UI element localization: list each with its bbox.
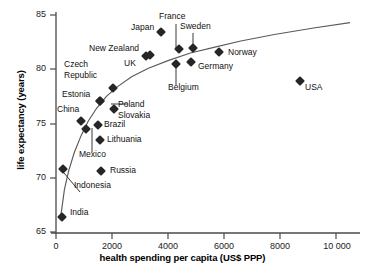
point-label-germany: Germany xyxy=(198,62,233,72)
point-label-brazil: Brazil xyxy=(104,120,125,130)
x-axis-title: health spending per capita (US$ PPP) xyxy=(0,252,365,263)
point-label-estonia: Estonia xyxy=(62,90,90,100)
y-tick-label-65: 65 xyxy=(22,226,46,236)
point-label-china: China xyxy=(57,105,79,115)
point-label-sweden: Sweden xyxy=(180,22,211,32)
point-label-belgium: Belgium xyxy=(168,83,199,93)
scatter-chart: 85 80 75 70 65 0 2000 4000 6000 8000 10 … xyxy=(0,0,365,274)
point-label-russia: Russia xyxy=(110,166,136,176)
point-label-india: India xyxy=(70,208,88,218)
y-axis-title: life expectancy (years) xyxy=(15,30,26,210)
point-label-lithuania: Lithuania xyxy=(107,135,142,145)
point-label-mexico: Mexico xyxy=(79,150,106,160)
x-tick-label-0: 0 xyxy=(26,241,86,251)
point-label-japan: Japan xyxy=(131,23,154,33)
point-label-new-zealand: New Zealand xyxy=(89,44,139,54)
x-tick-label-4000: 4000 xyxy=(138,241,198,251)
y-tick-label-85: 85 xyxy=(22,9,46,19)
point-label-poland: Poland xyxy=(118,100,144,110)
point-label-norway: Norway xyxy=(228,48,257,58)
point-label-indonesia: Indonesia xyxy=(74,181,111,191)
x-tick-label-10000: 10 000 xyxy=(307,241,365,251)
x-tick-label-6000: 6000 xyxy=(194,241,254,251)
point-label-czech: Czech xyxy=(64,60,88,70)
point-label-czech-republic: Republic xyxy=(64,71,97,81)
x-tick-label-8000: 8000 xyxy=(250,241,310,251)
point-label-uk: UK xyxy=(124,59,136,69)
x-axis-ticks xyxy=(56,233,336,239)
plot-area xyxy=(0,0,365,274)
point-label-usa: USA xyxy=(305,83,322,93)
x-tick-label-2000: 2000 xyxy=(82,241,142,251)
y-axis-ticks xyxy=(50,15,56,232)
